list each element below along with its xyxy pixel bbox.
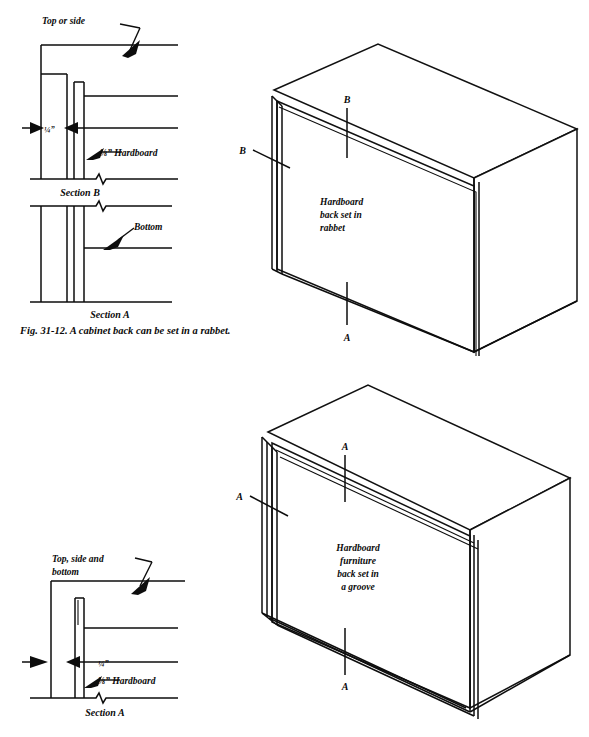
top-or-side-leader-stub [120,24,140,28]
section-mark-b-upper-letter: B [343,94,351,105]
section-a-caption: Section A [90,309,130,320]
rabbet-section-detail-group: ¼” ⅛” Hardboard Section B Top or side [22,16,178,198]
top-side-and-label-line2: bottom [52,567,79,577]
section-b-baseline-with-break [88,174,178,184]
section-b-caption: Section B [60,187,100,198]
groove-section-a-caption: Section A [85,707,125,718]
quarter-dim-right-arrowhead [64,122,78,134]
top-side-bottom-arrowhead [131,577,150,595]
top-side-bottom-leader-stub [135,558,152,562]
figure-root: ¼” ⅛” Hardboard Section B Top or side Bo… [0,0,589,737]
quarter-dim-left-arrowhead [30,122,44,134]
section-mark-a-lower-letter: A [343,332,351,343]
cabinet-groove-isometric-group: A A A Hardboard furniture back set in a … [235,385,570,719]
quarter-inch-dimension-label: ¼” [44,124,55,134]
top-side-and-label-line1: Top, side and [52,554,104,564]
technical-illustration-canvas: ¼” ⅛” Hardboard Section B Top or side Bo… [0,0,589,737]
section2-mark-a-left-letter: A [235,491,243,502]
section2-mark-a-upper-letter: A [341,441,349,452]
cabinet-rabbet-isometric-group: B B A Hardboard back set in rabbet [238,44,577,356]
section-a-top-line-with-break [30,201,172,211]
groove-quarter-dim-left-arrowhead [30,656,48,668]
section-mark-b-left-letter: B [238,145,246,156]
groove-quarter-dim-right-arrowhead [66,656,80,668]
cabinet-top-body-line-3: rabbet [320,223,345,233]
hardboard-note-label: ⅛” Hardboard [100,148,158,158]
section-a-detail-group: Bottom Section A [30,201,172,320]
top-or-side-arrowhead-solid [122,40,140,58]
bottom-label: Bottom [133,222,163,232]
section2-mark-a-lower-letter: A [341,681,349,692]
top-or-side-label: Top or side [42,16,86,26]
groove-section-baseline-with-break [30,693,178,703]
groove-section-detail-group: Top, side and bottom ¼” ⅛” Hardboard Sec… [22,554,185,718]
figure-caption: Fig. 31-12. A cabinet back can be set in… [19,325,230,336]
cabinet-top-body-line-2: back set in [320,210,362,220]
groove-quarter-inch-dimension-label: ¼” [98,658,109,668]
cabinet-bottom-body-line-3: back set in [337,569,379,579]
cabinet-bottom-body-line-2: furniture [340,556,377,566]
cabinet-bottom-body-line-1: Hardboard [335,543,380,553]
groove-hardboard-note-label: ⅛” Hardboard [98,676,156,686]
cabinet-bottom-body-line-4: a groove [341,582,375,592]
cabinet-top-body-line-1: Hardboard [319,197,364,207]
